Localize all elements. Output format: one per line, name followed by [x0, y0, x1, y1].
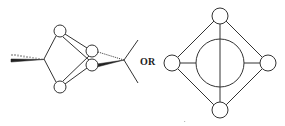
hashed-wedge-left: [12, 54, 42, 59]
node-right-left: [164, 55, 180, 71]
node-left-bottom: [54, 81, 66, 93]
left-structure: [11, 25, 138, 93]
right-structure: [164, 8, 276, 118]
solid-wedge-right: [97, 60, 124, 67]
solid-wedge-left: [11, 59, 44, 62]
node-right-bottom: [212, 102, 228, 118]
node-left-right-upper: [86, 45, 98, 57]
stray-dot: [184, 121, 185, 122]
hashed-bond-right: [98, 52, 124, 60]
node-left-right-lower: [86, 59, 98, 71]
node-left-top: [54, 25, 66, 37]
node-right-right: [260, 55, 276, 71]
node-right-top: [212, 8, 228, 24]
or-connector-label: OR: [140, 56, 155, 67]
